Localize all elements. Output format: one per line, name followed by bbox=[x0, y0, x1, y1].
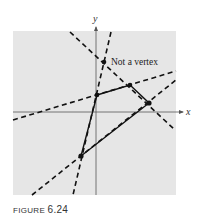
vertex-point bbox=[95, 93, 100, 98]
vertex-point bbox=[146, 100, 151, 105]
vertex-point bbox=[128, 83, 133, 88]
x-axis-arrow-icon bbox=[179, 110, 184, 114]
figure-diagram: x y Not a vertex bbox=[0, 0, 200, 218]
non-vertex-point bbox=[102, 60, 107, 65]
vertex-point bbox=[78, 153, 83, 158]
figure-caption: FIGURE 6.24 bbox=[13, 204, 68, 215]
y-axis-arrow-icon bbox=[94, 26, 98, 31]
y-axis-label: y bbox=[92, 13, 98, 24]
caption-number: 6.24 bbox=[48, 204, 69, 215]
annotation-not-a-vertex: Not a vertex bbox=[111, 57, 158, 67]
x-axis-label: x bbox=[185, 106, 191, 117]
caption-label: FIGURE bbox=[13, 206, 45, 215]
